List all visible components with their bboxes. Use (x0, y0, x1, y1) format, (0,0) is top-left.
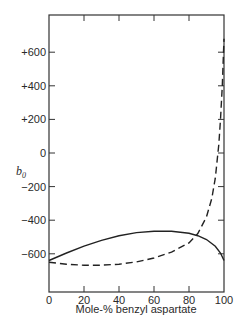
dashed-series-line (49, 39, 224, 265)
y-tick-label: +600 (21, 46, 46, 58)
x-tick-label: 100 (215, 294, 233, 306)
y-tick-label: −400 (21, 214, 46, 226)
y-tick-label: 0 (40, 147, 46, 159)
x-tick-label: 0 (46, 294, 52, 306)
y-tick-label: +400 (21, 80, 46, 92)
y-tick-label: −200 (21, 181, 46, 193)
y-tick-label: −600 (21, 248, 46, 260)
axis-ticks (49, 15, 224, 292)
y-tick-label: +200 (21, 113, 46, 125)
x-axis-label: Mole-% benzyl aspartate (75, 303, 196, 315)
y-tick-labels: +600+400+2000−200−400−600 (21, 46, 46, 260)
y-axis-label: b0 (16, 164, 26, 180)
solid-series-line (49, 231, 224, 260)
chart: 020406080100 +600+400+2000−200−400−600 b… (0, 0, 244, 327)
plot-frame (49, 15, 224, 292)
